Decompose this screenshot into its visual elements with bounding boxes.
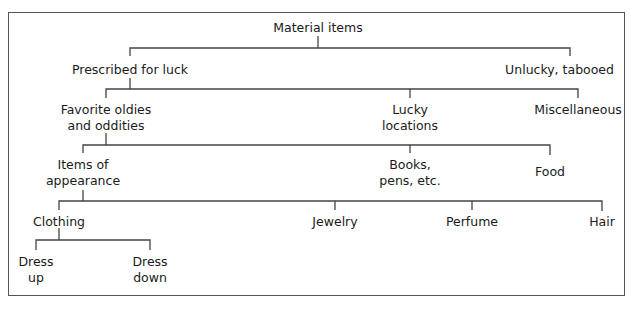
node-perfume: Perfume <box>446 214 498 230</box>
node-label-line2: locations <box>382 118 438 134</box>
node-label-line2: pens, etc. <box>379 173 440 189</box>
node-dress-up: Dress up <box>18 254 53 286</box>
node-label-line1: Favorite oldies <box>61 102 152 118</box>
node-prescribed-for-luck: Prescribed for luck <box>72 62 188 78</box>
node-label-line1: Dress <box>132 254 167 270</box>
node-jewelry: Jewelry <box>312 214 357 230</box>
tree-connectors <box>0 0 634 309</box>
node-items-of-appearance: Items of appearance <box>46 157 120 189</box>
node-clothing: Clothing <box>33 214 85 230</box>
node-label-line1: Dress <box>18 254 53 270</box>
node-food: Food <box>535 164 565 180</box>
node-label-line1: Books, <box>379 157 440 173</box>
node-label-line2: down <box>132 270 167 286</box>
node-material-items: Material items <box>273 20 363 36</box>
node-miscellaneous: Miscellaneous <box>534 102 622 118</box>
node-label-line2: up <box>18 270 53 286</box>
node-label-line1: Items of <box>46 157 120 173</box>
node-label-line2: appearance <box>46 173 120 189</box>
node-label-line1: Lucky <box>382 102 438 118</box>
node-books-pens: Books, pens, etc. <box>379 157 440 189</box>
node-dress-down: Dress down <box>132 254 167 286</box>
node-lucky-locations: Lucky locations <box>382 102 438 134</box>
node-label-line2: and oddities <box>61 118 152 134</box>
node-unlucky-tabooed: Unlucky, tabooed <box>505 62 614 78</box>
node-favorite-oldies: Favorite oldies and oddities <box>61 102 152 134</box>
node-hair: Hair <box>589 214 615 230</box>
